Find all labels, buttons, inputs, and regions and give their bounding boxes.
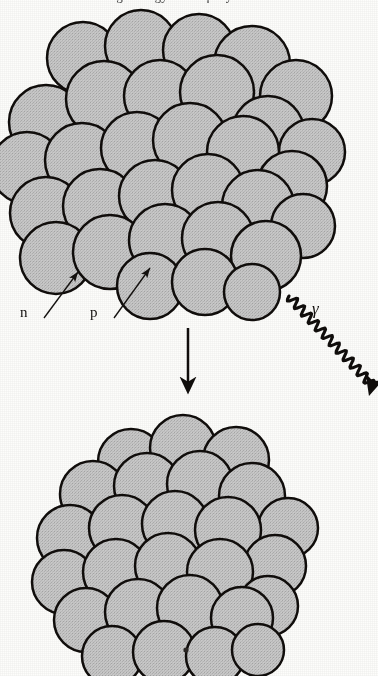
scan-artifacts	[183, 647, 188, 652]
gamma-label: γ	[312, 300, 319, 317]
upper-nucleus-cluster	[0, 10, 345, 320]
nucleon-sphere	[232, 624, 284, 676]
nucleon-sphere	[224, 264, 280, 320]
proton-label: p	[90, 305, 98, 320]
figure-canvas: large energy of the γ-ray emitted	[0, 0, 378, 676]
gamma-wavy-arrow	[287, 296, 374, 390]
nucleus-diagram	[0, 0, 378, 676]
scan-speck	[183, 647, 188, 652]
neutron-label: n	[20, 305, 28, 320]
lower-nucleus-cluster	[32, 415, 318, 676]
